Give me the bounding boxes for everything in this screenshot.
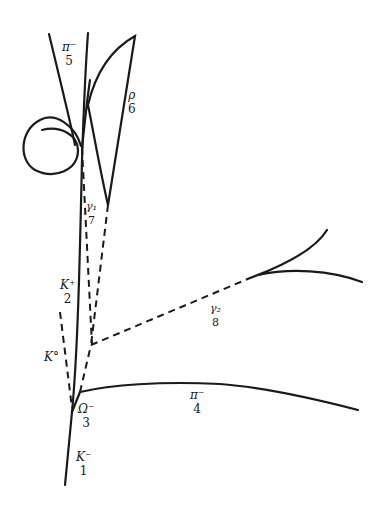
track-pi-minus-4 xyxy=(80,383,358,410)
label-track-3: Ω⁻ 3 xyxy=(78,402,94,430)
label-track-8: γ₂ 8 xyxy=(210,302,221,330)
track-decay-dashed xyxy=(80,345,91,392)
label-track-4: π⁻ 4 xyxy=(190,388,204,416)
label-k-zero: K° xyxy=(44,350,59,364)
track-gamma-1 xyxy=(82,148,92,345)
label-track-1: K⁻ 1 xyxy=(76,450,91,478)
label-track-5: π⁻ 5 xyxy=(62,40,76,68)
track-branch xyxy=(82,80,108,205)
track-k-zero xyxy=(60,312,72,408)
track-spiral-loop xyxy=(24,118,81,174)
label-track-7: γ₁ 7 xyxy=(86,200,97,228)
particle-track-diagram xyxy=(0,0,384,519)
track-rho xyxy=(88,36,135,205)
track-k-minus xyxy=(65,412,72,485)
label-track-6: ρ 6 xyxy=(128,88,136,116)
label-track-2: K⁺ 2 xyxy=(60,278,75,306)
track-gamma-2 xyxy=(91,278,250,345)
track-pair-lower xyxy=(258,271,362,282)
